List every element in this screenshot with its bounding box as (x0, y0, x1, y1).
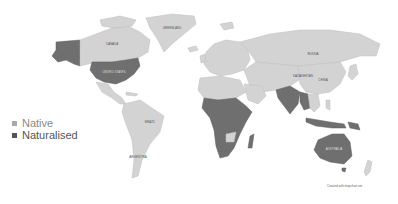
region-tasmania (342, 168, 346, 172)
region-svalbard (220, 22, 234, 30)
label-brazil: BRAZIL (145, 120, 156, 124)
label-canada: CANADA (106, 42, 119, 46)
credit-text: Created with mapchart.net (327, 184, 362, 188)
region-madagascar (248, 134, 254, 148)
region-central-america (96, 82, 126, 104)
legend-item-native: Native (12, 117, 78, 129)
region-canada (80, 26, 150, 66)
region-uk (200, 54, 206, 63)
region-philippines (326, 100, 330, 110)
region-png (348, 122, 360, 130)
label-kazakhstan: KAZAKHSTAN (293, 74, 313, 78)
region-se-asia (308, 94, 320, 112)
legend-swatch-native (12, 121, 17, 126)
region-alaska (52, 40, 80, 66)
region-new-zealand (364, 160, 372, 176)
region-sub-saharan-africa (202, 98, 252, 158)
map-legend: Native Naturalised (12, 117, 78, 141)
label-argentina: ARGENTINA (129, 155, 147, 159)
region-japan (348, 64, 358, 80)
region-iceland (188, 46, 198, 52)
label-greenland: GREENLAND (163, 26, 183, 30)
label-china: CHINA (318, 78, 327, 82)
legend-item-naturalised: Naturalised (12, 129, 78, 141)
region-south-america (122, 100, 164, 178)
label-usa: UNITED STATES (102, 70, 125, 74)
legend-label-naturalised: Naturalised (22, 129, 78, 141)
label-russia: RUSSIA (307, 52, 318, 56)
region-southern-africa-native (226, 132, 236, 142)
world-map: CANADA UNITED STATES GREENLAND RUSSIA KA… (0, 0, 398, 204)
region-russia (240, 30, 380, 66)
region-caribbean (126, 92, 138, 96)
legend-label-native: Native (22, 117, 53, 129)
region-arctic-islands (100, 16, 136, 28)
region-north-africa (198, 76, 246, 100)
region-greenland (146, 14, 196, 52)
label-australia: AUSTRALIA (326, 147, 343, 151)
region-india (276, 86, 300, 114)
legend-swatch-naturalised (12, 133, 17, 138)
region-indonesia (306, 118, 346, 128)
